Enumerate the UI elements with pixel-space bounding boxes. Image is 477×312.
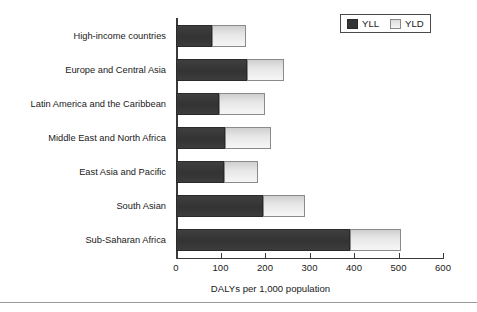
- legend-label: YLD: [405, 18, 424, 29]
- x-tick-mark: [265, 253, 266, 259]
- bar-segment-yld: [212, 25, 246, 47]
- x-axis-title-text: DALYs per 1,000 population: [211, 283, 330, 294]
- x-tick-label: 0: [156, 262, 196, 274]
- x-tick-label: 100: [201, 262, 241, 274]
- bar-segment-yld: [224, 161, 258, 183]
- category-label: Middle East and North Africa: [48, 133, 166, 144]
- bar-segment-yll: [176, 25, 212, 47]
- x-tick-label: 300: [290, 262, 330, 274]
- category-label: Europe and Central Asia: [65, 65, 166, 76]
- bar-segment-yld: [247, 59, 284, 81]
- bar-segment-yll: [176, 161, 224, 183]
- bar-segment-yld: [219, 93, 265, 115]
- footer-divider: [0, 302, 477, 303]
- bar-segment-yll: [176, 195, 263, 217]
- x-axis-title: DALYs per 1,000 population: [0, 283, 477, 294]
- light-swatch-icon: [390, 19, 401, 29]
- bar-segment-yll: [176, 127, 225, 149]
- legend-label: YLL: [362, 18, 379, 29]
- bar-segment-yld: [225, 127, 270, 149]
- x-tick-mark: [221, 253, 222, 259]
- x-tick-mark: [310, 253, 311, 259]
- x-tick-mark: [443, 253, 444, 259]
- category-label: Latin America and the Caribbean: [31, 99, 166, 110]
- bar-segment-yll: [176, 93, 219, 115]
- x-tick-mark: [354, 253, 355, 259]
- legend-entry-yld: YLD: [390, 18, 424, 29]
- chart-figure: High-income countries Europe and Central…: [0, 0, 477, 312]
- bar-segment-yld: [263, 195, 306, 217]
- bar-segment-yld: [350, 229, 401, 251]
- x-tick-label: 200: [245, 262, 285, 274]
- category-label: Sub-Saharan Africa: [85, 235, 166, 246]
- category-label: South Asian: [116, 201, 166, 212]
- x-tick-label: 600: [423, 262, 463, 274]
- x-tick-mark: [176, 253, 177, 259]
- category-label: High-income countries: [74, 31, 167, 42]
- dark-swatch-icon: [347, 19, 358, 29]
- category-label: East Asia and Pacific: [79, 167, 166, 178]
- bar-segment-yll: [176, 59, 247, 81]
- legend-entry-yll: YLL: [347, 18, 379, 29]
- chart-legend: YLL YLD: [340, 14, 431, 33]
- category-axis: High-income countries Europe and Central…: [0, 18, 172, 258]
- x-tick-mark: [399, 253, 400, 259]
- bar-segment-yll: [176, 229, 350, 251]
- x-tick-label: 500: [379, 262, 419, 274]
- plot-area: [176, 18, 443, 258]
- x-tick-label: 400: [334, 262, 374, 274]
